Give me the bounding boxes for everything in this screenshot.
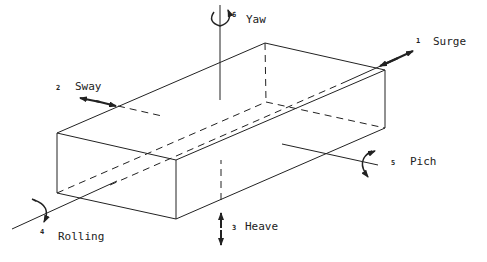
six-dof-diagram: 1 Surge 2 Sway 3 Heave 4 Rolling 5 Pich … — [0, 0, 487, 262]
rolling-label: Rolling — [58, 230, 104, 243]
heave-number: 3 — [232, 224, 236, 232]
yaw-number: 6 — [232, 11, 236, 19]
pitch-axis — [282, 144, 378, 177]
rolling-number: 4 — [40, 228, 44, 236]
box-body — [57, 43, 385, 219]
surge-number: 1 — [416, 37, 420, 45]
sway-number: 2 — [56, 84, 60, 92]
yaw-label: Yaw — [246, 13, 266, 26]
surge-axis — [12, 51, 413, 229]
sway-axis — [80, 98, 162, 116]
pitch-number: 5 — [391, 159, 395, 167]
pitch-label: Pich — [410, 155, 437, 168]
surge-label: Surge — [433, 35, 466, 48]
yaw-axis — [212, 5, 230, 100]
sway-label: Sway — [75, 80, 102, 93]
heave-label: Heave — [245, 220, 278, 233]
